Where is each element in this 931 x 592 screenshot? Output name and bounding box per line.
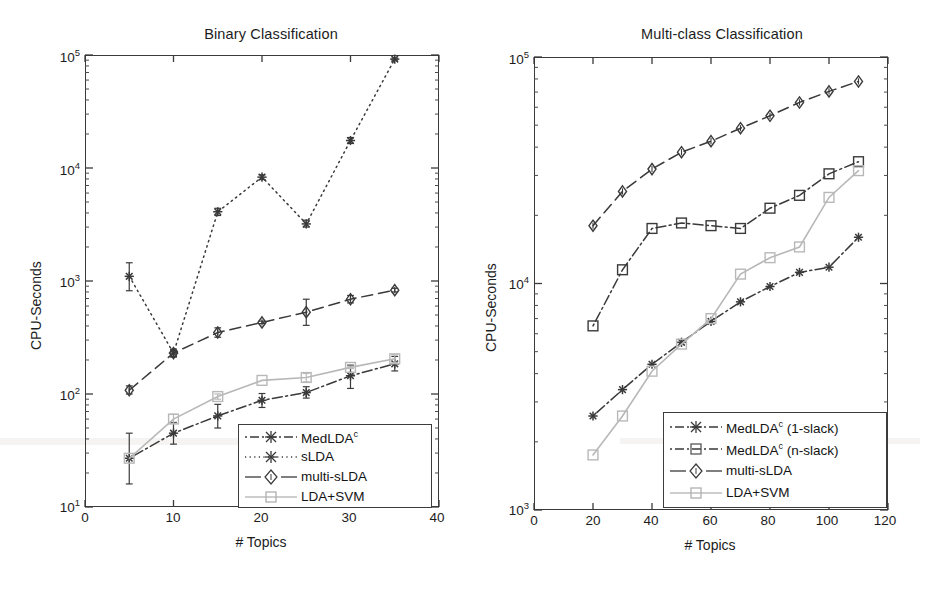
y-tick-binary: 105 (28, 47, 80, 65)
legend-item[interactable]: multi-sLDA (243, 467, 431, 487)
legend-item[interactable]: sLDA (243, 447, 431, 467)
x-tick-multiclass: 0 (514, 513, 554, 528)
legend-item[interactable]: MedLDAc (243, 427, 431, 447)
x-tick-multiclass: 80 (748, 513, 788, 528)
legend-swatch-dashdot-square-icon (668, 440, 726, 458)
legend-label: multi-sLDA (726, 464, 792, 478)
x-tick-multiclass: 60 (690, 513, 730, 528)
legend-label: MedLDAc (1-slack) (726, 420, 839, 435)
x-axis-label-multiclass: # Topics (630, 537, 790, 553)
x-tick-multiclass: 100 (807, 513, 847, 528)
legend-multiclass[interactable]: MedLDAc (1-slack) MedLDAc (n-slack) (663, 412, 887, 508)
x-tick-binary: 20 (241, 510, 281, 525)
legend-swatch-solid-square-icon (668, 484, 726, 502)
legend-swatch-dashdot-asterisk-icon (243, 428, 301, 446)
y-tick-binary: 104 (28, 160, 80, 178)
legend-label: MedLDAc (301, 430, 358, 445)
legend-item[interactable]: MedLDAc (1-slack) (668, 416, 886, 438)
x-axis-label-binary: # Topics (181, 534, 341, 550)
legend-item[interactable]: LDA+SVM (668, 482, 886, 504)
y-tick-binary: 103 (28, 272, 80, 290)
legend-swatch-dashdot-asterisk-icon (668, 418, 726, 436)
legend-label: LDA+SVM (726, 486, 789, 500)
legend-swatch-dotted-asterisk-icon (243, 448, 301, 466)
x-tick-multiclass: 120 (865, 513, 905, 528)
legend-swatch-dashed-diamond-icon (668, 462, 726, 480)
legend-label: MedLDAc (n-slack) (726, 442, 839, 457)
x-tick-multiclass: 20 (573, 513, 613, 528)
x-tick-binary: 40 (417, 510, 457, 525)
x-tick-binary: 0 (65, 510, 105, 525)
legend-item[interactable]: MedLDAc (n-slack) (668, 438, 886, 460)
legend-item[interactable]: multi-sLDA (668, 460, 886, 482)
panel-multiclass-classification: Multi-class Classification CPU-Seconds 1… (461, 0, 931, 592)
figure-root: Binary Classification CPU-Seconds 101 10… (0, 0, 931, 592)
legend-swatch-solid-square-icon (243, 488, 301, 506)
legend-label: sLDA (301, 450, 334, 464)
legend-item[interactable]: LDA+SVM (243, 487, 431, 507)
legend-label: LDA+SVM (301, 490, 364, 504)
x-tick-binary: 10 (153, 510, 193, 525)
legend-binary[interactable]: MedLDAc sLDA (238, 424, 432, 508)
x-tick-binary: 30 (329, 510, 369, 525)
legend-label: multi-sLDA (301, 470, 367, 484)
y-tick-binary: 102 (28, 385, 80, 403)
panel-binary-classification: Binary Classification CPU-Seconds 101 10… (0, 0, 470, 592)
y-tick-multiclass: 104 (477, 274, 529, 292)
y-tick-multiclass: 105 (477, 49, 529, 67)
legend-swatch-dashed-diamond-icon (243, 468, 301, 486)
x-tick-multiclass: 40 (631, 513, 671, 528)
